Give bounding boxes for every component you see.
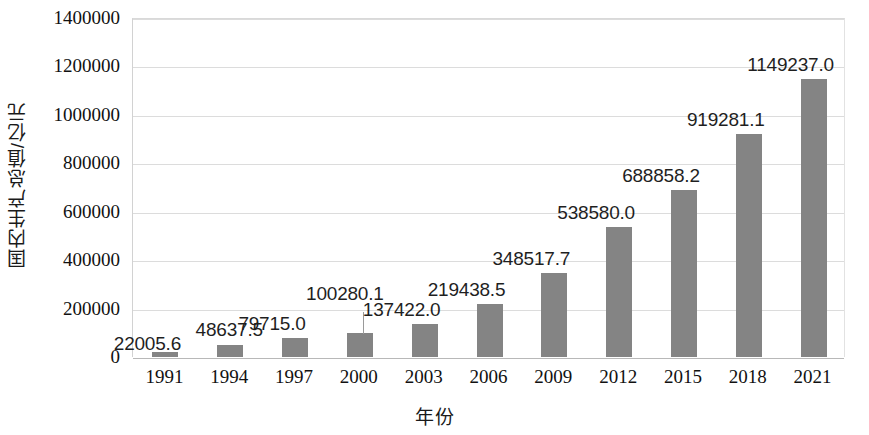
bar[interactable] — [801, 79, 827, 357]
y-axis-tick-label: 800000 — [63, 152, 120, 174]
bar[interactable] — [606, 227, 632, 357]
y-axis-tick-label: 1400000 — [54, 7, 121, 29]
bar[interactable] — [217, 345, 243, 357]
gridline — [133, 358, 844, 359]
x-axis-title: 年份 — [0, 402, 869, 429]
bar[interactable] — [347, 333, 373, 357]
y-axis-tick-label: 600000 — [63, 201, 120, 223]
y-axis-tick-label: 0 — [111, 346, 121, 368]
x-axis-tick-label: 2021 — [794, 366, 832, 388]
x-axis-tick-label: 2000 — [340, 366, 378, 388]
bar[interactable] — [477, 304, 503, 357]
y-axis-tick-label: 1000000 — [54, 104, 121, 126]
bar[interactable] — [541, 273, 567, 357]
x-axis-tick-label: 2009 — [534, 366, 572, 388]
x-axis-tick-label: 2018 — [729, 366, 767, 388]
label-leader-line — [363, 312, 364, 334]
bars-layer — [133, 19, 844, 357]
bar-chart: 国内生产总值/亿元 020000040000060000080000010000… — [0, 0, 869, 435]
bar[interactable] — [671, 190, 697, 357]
bar[interactable] — [152, 352, 178, 357]
y-axis-tick-label: 200000 — [63, 298, 120, 320]
x-axis-tick-label: 2006 — [470, 366, 508, 388]
bar[interactable] — [282, 338, 308, 357]
y-axis-tick-label: 400000 — [63, 249, 120, 271]
y-axis-tick-label: 1200000 — [54, 55, 121, 77]
x-axis-tick-labels: 1991199419972000200320062009201220152018… — [132, 366, 845, 398]
bar[interactable] — [412, 324, 438, 357]
x-axis-tick-label: 2003 — [405, 366, 443, 388]
x-axis-tick-label: 2015 — [664, 366, 702, 388]
x-axis-tick-label: 1991 — [145, 366, 183, 388]
x-axis-tick-label: 2012 — [599, 366, 637, 388]
y-axis-title-text: 国内生产总值/亿元 — [4, 102, 31, 268]
plot-area — [132, 18, 845, 357]
x-axis-tick-label: 1997 — [275, 366, 313, 388]
y-axis-title: 国内生产总值/亿元 — [0, 0, 34, 370]
y-axis-tick-labels: 0200000400000600000800000100000012000001… — [30, 0, 126, 370]
bar[interactable] — [736, 134, 762, 357]
x-axis-tick-label: 1994 — [210, 366, 248, 388]
